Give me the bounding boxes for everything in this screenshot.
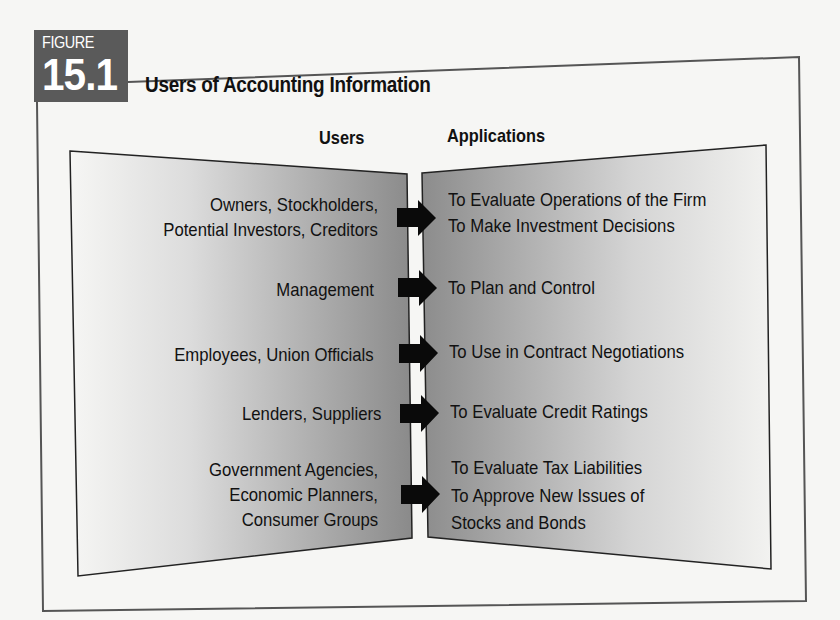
user-row-3: Employees, Union Officials [175,343,374,367]
application-row-2: To Plan and Control [448,276,595,300]
figure-badge: FIGURE 15.1 [34,30,128,102]
user-row-4: Lenders, Suppliers [242,402,381,426]
user-row-5-line-1: Government Agencies, [209,458,378,482]
figure-number: 15.1 [42,53,121,97]
application-row-5-line-1: To Evaluate Tax Liabilities [451,456,642,480]
users-column-header: Users [319,127,364,149]
user-row-2: Management [276,278,374,302]
application-row-1-line-2: To Make Investment Decisions [448,214,675,238]
user-row-1-line-1: Owners, Stockholders, [210,193,378,217]
application-row-5-line-3: Stocks and Bonds [451,511,586,535]
user-row-1-line-2: Potential Investors, Creditors [163,218,378,242]
figure-title: Users of Accounting Information [145,72,431,98]
figure-15-1: FIGURE 15.1 Users of Accounting Informat… [0,0,840,620]
user-row-5-line-3: Consumer Groups [241,508,378,532]
application-row-1-line-1: To Evaluate Operations of the Firm [448,188,706,212]
application-row-4: To Evaluate Credit Ratings [450,400,648,424]
application-row-5-line-2: To Approve New Issues of [451,484,644,508]
application-row-3: To Use in Contract Negotiations [449,340,684,364]
applications-column-header: Applications [447,125,545,147]
user-row-5-line-2: Economic Planners, [229,483,378,507]
